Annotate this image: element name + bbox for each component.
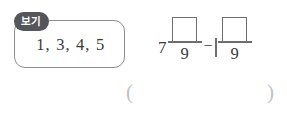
second-fraction-denominator: 9 — [220, 43, 250, 67]
close-paren: ) — [267, 82, 274, 103]
choice-item: 3 — [56, 37, 65, 54]
boki-tag: 보기 — [14, 12, 49, 31]
first-fraction-denominator: 9 — [170, 43, 200, 67]
first-fraction: 9 — [168, 17, 202, 66]
worksheet-problem: 1, 3, 4, 5 보기 7 9 − — [0, 0, 287, 122]
whole-number-seven: 7 — [158, 39, 167, 56]
second-fraction-numerator — [220, 17, 250, 41]
second-term-whole — [215, 39, 217, 57]
first-fraction-numerator — [170, 17, 200, 41]
choice-separator: , — [65, 37, 70, 54]
whole-number-input-box[interactable] — [215, 38, 217, 57]
numerator-input-box[interactable] — [222, 17, 247, 42]
choice-separator: , — [85, 37, 90, 54]
boki-tag-label: 보기 — [21, 16, 42, 27]
minus-operator: − — [204, 38, 213, 54]
math-expression: 7 9 − 9 — [158, 14, 252, 70]
second-fraction: 9 — [218, 17, 252, 66]
denominator-text: 9 — [180, 46, 188, 63]
choice-item: 4 — [76, 37, 85, 54]
answer-parentheses[interactable]: ( ) — [126, 78, 274, 106]
open-paren: ( — [126, 82, 133, 103]
choice-item: 1 — [36, 37, 45, 54]
denominator-text: 9 — [230, 46, 238, 63]
choice-item: 5 — [96, 37, 105, 54]
choice-separator: , — [46, 37, 51, 54]
numerator-input-box[interactable] — [172, 17, 197, 42]
